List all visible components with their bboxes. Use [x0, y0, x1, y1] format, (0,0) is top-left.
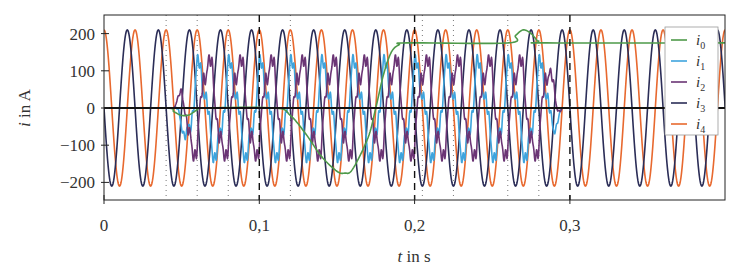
legend: i0i1i2i3i4 [665, 27, 718, 135]
y-tick-label: −200 [60, 173, 95, 192]
x-tick-label: 0 [100, 216, 109, 235]
current-waveform-chart: 2001000−100−200 00,10,20,3 i in A t in s… [0, 0, 734, 273]
y-tick-label: 200 [70, 25, 96, 44]
x-tick-label: 0,1 [249, 216, 270, 235]
y-axis-ticks: 2001000−100−200 [60, 25, 109, 193]
x-axis-label: t in s [397, 247, 430, 266]
y-tick-label: 100 [70, 62, 96, 81]
x-tick-label: 0,2 [404, 216, 425, 235]
y-axis-label: i in A [15, 88, 34, 127]
y-tick-label: 0 [87, 99, 96, 118]
x-tick-label: 0,3 [559, 216, 580, 235]
y-tick-label: −100 [60, 136, 95, 155]
legend-box [665, 27, 718, 135]
x-axis-ticks: 00,10,20,3 [100, 195, 581, 235]
